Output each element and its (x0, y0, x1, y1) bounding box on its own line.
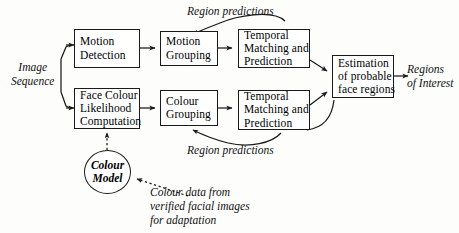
input-fork-lower (61, 92, 70, 108)
label-colour-adaptation-line-2: verified facial images (150, 199, 250, 213)
arrow-temporal-bottom-to-estimation (310, 92, 327, 105)
node-temporal-bottom-line-3: Prediction (244, 117, 309, 130)
node-face-colour-line-3: Computation (80, 115, 139, 128)
label-image-sequence: Image Sequence (11, 60, 54, 88)
node-face-colour-line-1: Face Colour (80, 89, 139, 102)
node-face-colour-likelihood[interactable]: Face Colour Likelihood Computation (74, 88, 140, 129)
node-colour-model-line-2: Model (92, 172, 122, 185)
node-motion-detection[interactable]: Motion Detection (74, 29, 140, 68)
node-motion-grouping-line-2: Grouping (166, 49, 217, 62)
node-temporal-top-line-3: Prediction (244, 55, 309, 68)
node-temporal-matching-top[interactable]: Temporal Matching and Prediction (238, 29, 310, 68)
node-motion-grouping-line-1: Motion (166, 35, 217, 48)
label-region-predictions-top: Region predictions (187, 4, 274, 18)
input-fork-upper (61, 45, 70, 59)
label-colour-adaptation: Colour data from verified facial images … (150, 185, 250, 227)
label-regions-of-interest-line-2: of Interest (407, 76, 454, 90)
node-colour-model-line-1: Colour (91, 159, 124, 172)
node-colour-grouping-line-2: Grouping (166, 108, 217, 121)
node-temporal-bottom-line-2: Matching and (244, 103, 309, 116)
node-temporal-matching-bottom[interactable]: Temporal Matching and Prediction (238, 90, 310, 130)
node-temporal-top-line-1: Temporal (244, 29, 309, 42)
node-motion-detection-line-2: Detection (80, 49, 139, 62)
node-estimation-line-3: face regions (338, 83, 393, 96)
label-image-sequence-line-2: Sequence (11, 74, 54, 88)
feedback-arrow-bottom-left (193, 130, 228, 143)
label-image-sequence-line-1: Image (11, 60, 54, 74)
node-temporal-top-line-2: Matching and (244, 42, 309, 55)
label-colour-adaptation-line-1: Colour data from (150, 185, 250, 199)
label-colour-adaptation-line-3: for adaptation (150, 213, 250, 227)
node-colour-grouping-line-1: Colour (166, 95, 217, 108)
node-motion-grouping[interactable]: Motion Grouping (160, 31, 218, 66)
node-face-colour-line-2: Likelihood (80, 102, 139, 115)
label-region-predictions-bottom: Region predictions (187, 143, 274, 157)
node-colour-model[interactable]: Colour Model (84, 150, 131, 194)
label-regions-of-interest-line-1: Regions (407, 62, 454, 76)
diagram-canvas: Motion Detection Motion Grouping Tempora… (0, 0, 459, 233)
node-colour-grouping[interactable]: Colour Grouping (160, 90, 218, 126)
node-estimation-line-2: of probable (338, 70, 393, 83)
label-regions-of-interest: Regions of Interest (407, 62, 454, 90)
node-temporal-bottom-line-1: Temporal (244, 90, 309, 103)
node-estimation-line-1: Estimation (338, 57, 393, 70)
arrow-temporal-top-to-estimation (310, 60, 327, 71)
node-estimation[interactable]: Estimation of probable face regions (332, 55, 394, 98)
node-motion-detection-line-1: Motion (80, 35, 139, 48)
